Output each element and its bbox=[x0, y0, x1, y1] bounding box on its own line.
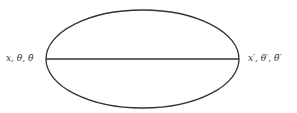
right-vertex-label: x′, θ′, θ̄′ bbox=[248, 54, 282, 63]
ellipse-diagram: x, θ, θ̄ x′, θ′, θ̄′ bbox=[0, 0, 297, 113]
left-vertex-label: x, θ, θ̄ bbox=[6, 54, 33, 63]
